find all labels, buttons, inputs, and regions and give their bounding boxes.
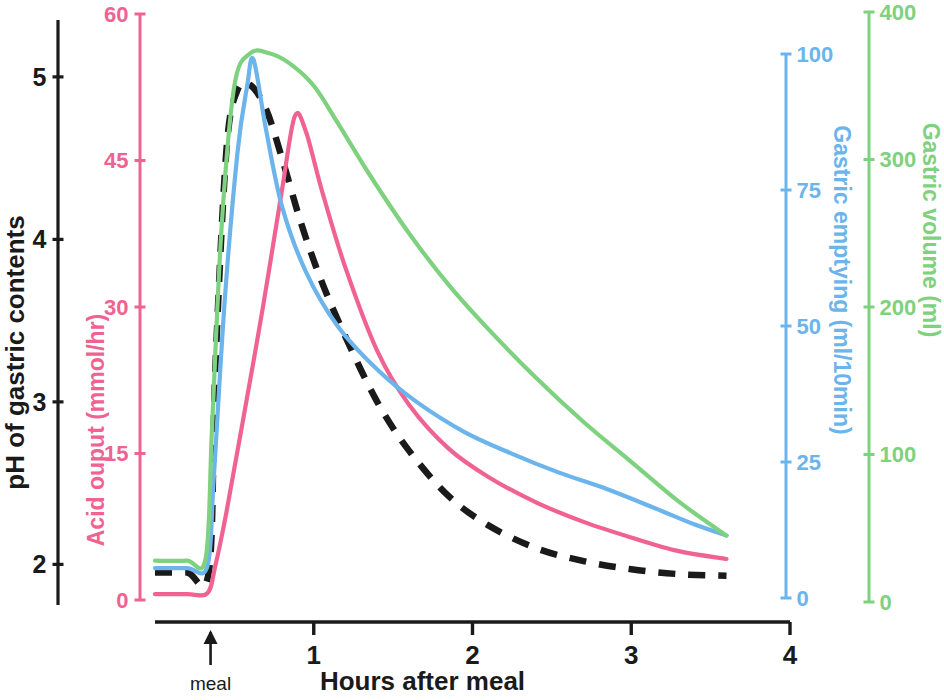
axis-tick-label-volume: 400 <box>880 0 917 25</box>
x-axis-title: Hours after meal <box>320 666 525 696</box>
y-axis-emptying: 0255075100 <box>781 42 834 611</box>
series-line-acid <box>155 113 727 596</box>
axis-tick-label-ph: 4 <box>33 225 47 253</box>
chart-svg: 2345015304560025507510001002003004001234… <box>0 0 944 700</box>
axis-tick-label-ph: 5 <box>33 63 47 91</box>
y-axis-ph: 2345 <box>33 20 64 605</box>
axis-tick-label-acid: 0 <box>116 588 128 613</box>
axis-title-emptying: Gastric emptying (ml/10min) <box>829 125 855 434</box>
meal-label: meal <box>190 673 231 694</box>
annotation-layer: meal <box>190 630 231 694</box>
meal-annotation: meal <box>190 630 231 694</box>
x-axis-tick-label: 3 <box>624 640 638 670</box>
axis-tick-label-emptying: 100 <box>797 42 834 67</box>
axis-tick-label-emptying: 75 <box>797 178 821 203</box>
x-axis-tick-label: 4 <box>783 640 798 670</box>
axis-tick-label-volume: 100 <box>880 442 917 467</box>
x-axis-tick-label: 1 <box>307 640 321 670</box>
axis-tick-label-ph: 2 <box>33 550 47 578</box>
axis-tick-label-emptying: 25 <box>797 450 821 475</box>
gastric-physiology-chart: 2345015304560025507510001002003004001234… <box>0 0 944 700</box>
x-axis: 1234 <box>155 622 798 670</box>
axis-tick-label-volume: 0 <box>880 590 892 615</box>
meal-arrow-head <box>204 630 218 644</box>
axis-tick-label-acid: 60 <box>104 2 128 27</box>
axis-title-acid: Acid ouput (mmol/hr) <box>83 314 109 547</box>
y-axis-acid: 015304560 <box>104 2 145 613</box>
y-axis-volume: 0100200300400 <box>864 0 917 615</box>
axis-tick-label-volume: 300 <box>880 147 917 172</box>
axis-tick-label-volume: 200 <box>880 295 917 320</box>
series-layer <box>155 50 727 595</box>
series-line-emptying <box>155 58 727 574</box>
axis-title-ph: pH of gastric contents <box>0 215 30 489</box>
series-line-ph <box>155 82 727 586</box>
axis-tick-label-ph: 3 <box>33 388 47 416</box>
axis-title-volume: Gastric volume (ml) <box>918 123 944 338</box>
axis-tick-label-emptying: 0 <box>797 586 809 611</box>
axis-tick-label-acid: 45 <box>104 148 128 173</box>
axis-tick-label-emptying: 50 <box>797 314 821 339</box>
